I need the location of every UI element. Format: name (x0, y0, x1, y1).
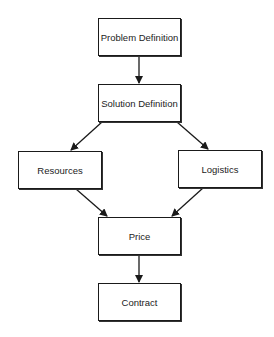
edge-logistics-to-price (172, 188, 203, 216)
node-label: Price (129, 231, 151, 242)
edge-solution-to-logistics (177, 122, 208, 149)
node-label: Problem Definition (101, 32, 179, 43)
node-label: Resources (37, 165, 82, 176)
node-solution-definition: Solution Definition (98, 84, 181, 122)
node-label: Solution Definition (101, 98, 178, 109)
node-resources: Resources (18, 151, 102, 189)
node-label: Contract (122, 297, 158, 308)
node-problem-definition: Problem Definition (98, 18, 181, 56)
node-logistics: Logistics (178, 150, 262, 188)
edge-solution-to-resources (71, 122, 102, 150)
node-contract: Contract (98, 283, 181, 321)
edge-resources-to-price (76, 189, 107, 216)
node-label: Logistics (202, 164, 239, 175)
node-price: Price (98, 217, 181, 255)
